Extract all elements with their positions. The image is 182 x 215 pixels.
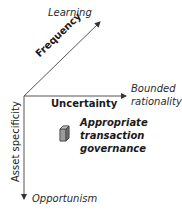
governance-line2: transaction [80,131,144,141]
governance-line1: Appropriate [80,118,148,128]
asset-specificity-label: Asset specificity [11,101,21,182]
bounded-label: Bounded [131,84,176,94]
cube-icon [60,126,69,141]
rationality-label: rationality [131,97,182,107]
governance-line3: governance [80,144,146,154]
opportunism-label: Opportunism [32,194,97,204]
uncertainty-label: Uncertainty [51,99,117,109]
